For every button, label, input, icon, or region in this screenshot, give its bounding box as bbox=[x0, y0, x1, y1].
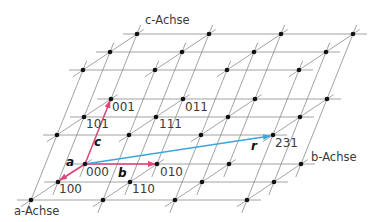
lattice-point-010 bbox=[155, 162, 160, 167]
point-label-101: 101 bbox=[86, 118, 109, 130]
c-axis-label: c-Achse bbox=[145, 14, 190, 26]
lattice-point-230 bbox=[245, 198, 250, 203]
lattice-point-211 bbox=[127, 133, 132, 138]
lattice-point-222 bbox=[225, 68, 230, 73]
point-label-000: 000 bbox=[86, 166, 109, 178]
point-label-110: 110 bbox=[132, 183, 155, 195]
b-axis-label: b-Achse bbox=[311, 151, 357, 163]
lattice-point-220 bbox=[173, 198, 178, 203]
lattice-point-212 bbox=[153, 68, 158, 73]
lattice-point-121 bbox=[226, 115, 231, 120]
vector-c-arrow bbox=[85, 101, 110, 164]
lattice-point-232 bbox=[297, 68, 302, 73]
vector-r-arrow bbox=[85, 136, 270, 164]
a-axis-label: a-Achse bbox=[14, 205, 59, 217]
lattice-point-120 bbox=[200, 180, 205, 185]
lattice-point-102 bbox=[108, 50, 113, 55]
lattice-point-131 bbox=[298, 115, 303, 120]
lattice-point-020 bbox=[227, 162, 232, 167]
vector-c-label: c bbox=[94, 136, 101, 148]
lattice-diagram: c-Achse b-Achse a-Achse a b c r 001 011 … bbox=[0, 0, 384, 222]
point-label-111: 111 bbox=[159, 118, 182, 130]
vector-b-label: b bbox=[118, 167, 127, 179]
lattice-point-002 bbox=[135, 32, 140, 37]
lattice-point-132 bbox=[324, 50, 329, 55]
lattice-point-031 bbox=[325, 97, 330, 102]
lattice-point-012 bbox=[207, 32, 212, 37]
lattice-point-202 bbox=[81, 68, 86, 73]
vector-a-label: a bbox=[66, 156, 74, 168]
lattice-point-021 bbox=[253, 97, 258, 102]
lattice-point-030 bbox=[299, 162, 304, 167]
lattice-point-122 bbox=[252, 50, 257, 55]
lattice-point-130 bbox=[272, 180, 277, 185]
lattice-point-112 bbox=[180, 50, 185, 55]
lattice-point-221 bbox=[199, 133, 204, 138]
lattice-point-111 bbox=[154, 115, 159, 120]
lattice-point-201 bbox=[55, 133, 60, 138]
lattice-point-210 bbox=[101, 198, 106, 203]
point-label-231: 231 bbox=[275, 137, 298, 149]
lattice-point-200 bbox=[29, 198, 34, 203]
lattice-point-022 bbox=[279, 32, 284, 37]
point-label-001: 001 bbox=[112, 101, 135, 113]
vector-r-label: r bbox=[251, 140, 257, 152]
point-label-100: 100 bbox=[59, 183, 82, 195]
point-label-011: 011 bbox=[185, 101, 208, 113]
point-label-010: 010 bbox=[160, 166, 183, 178]
lattice-point-032 bbox=[351, 32, 356, 37]
